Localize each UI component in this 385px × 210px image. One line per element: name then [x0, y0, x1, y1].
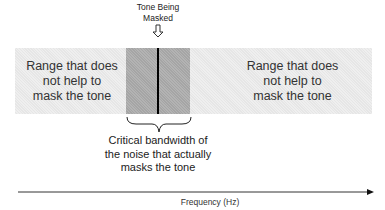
right-range-line-1: Range that does — [230, 59, 355, 74]
tone-label-line-2: Masked — [118, 13, 198, 24]
tone-label-line-1: Tone Being — [118, 2, 198, 13]
tone-label: Tone Being Masked — [118, 2, 198, 24]
right-range-line-2: not help to — [230, 74, 355, 89]
down-arrow-icon — [152, 24, 164, 38]
frequency-axis-label: Frequency (Hz) — [170, 197, 250, 207]
critical-bandwidth-label: Critical bandwidth of the noise that act… — [90, 134, 226, 175]
left-range-line-3: mask the tone — [20, 89, 124, 104]
critical-line-3: masks the tone — [90, 161, 226, 175]
critical-line-2: the noise that actually — [90, 148, 226, 162]
left-range-label: Range that does not help to mask the ton… — [20, 59, 124, 104]
critical-line-1: Critical bandwidth of — [90, 134, 226, 148]
tone-line — [157, 48, 159, 114]
left-range-line-1: Range that does — [20, 59, 124, 74]
right-range-label: Range that does not help to mask the ton… — [230, 59, 355, 104]
curly-brace-icon — [126, 116, 192, 134]
right-range-line-3: mask the tone — [230, 89, 355, 104]
left-range-line-2: not help to — [20, 74, 124, 89]
frequency-axis-arrow — [18, 189, 374, 195]
